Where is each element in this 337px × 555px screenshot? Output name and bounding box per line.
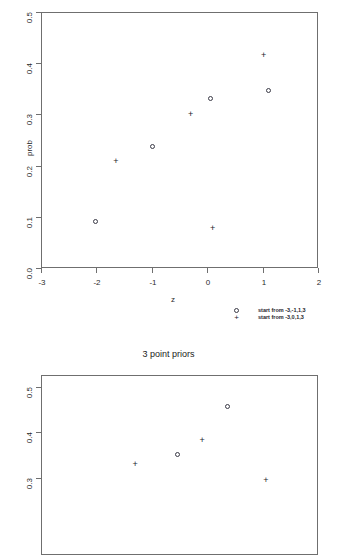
data-point-plus: + [131, 460, 140, 469]
top-ytick-label: 0.1 [26, 217, 34, 243]
data-point-plus: + [261, 476, 270, 485]
top-plot-frame [41, 12, 318, 268]
bottom-ytick-label: 0.3 [26, 478, 34, 504]
data-point-plus: + [111, 157, 120, 166]
data-point-plus: + [198, 436, 207, 445]
top-xtick-mark [41, 268, 42, 273]
top-xtick-mark [263, 268, 264, 273]
top-xaxis-label: z [167, 296, 179, 304]
bottom-ytick-label: 0.4 [26, 432, 34, 458]
data-point-plus: + [208, 224, 217, 233]
plus-marker-icon: + [232, 314, 241, 321]
bottom-plot-title: 3 point priors [0, 349, 337, 359]
top-ytick-label: 0.3 [26, 114, 34, 140]
top-ytick-mark [36, 12, 41, 13]
top-ytick-label: 0.4 [26, 63, 34, 89]
bottom-ytick-label: 0.5 [26, 387, 34, 413]
bottom-scatter-panel: 3 point priors 0.5 0.4 0.3 +++ [0, 340, 337, 492]
data-point-plus: + [259, 51, 268, 60]
top-xtick-label: 1 [258, 279, 270, 287]
bottom-ytick-mark [36, 478, 41, 479]
top-xtick-mark [318, 268, 319, 273]
top-ytick-mark [36, 166, 41, 167]
top-xtick-label: -3 [36, 279, 48, 287]
legend-label: start from -3,-1,1,3 [258, 307, 306, 314]
top-scatter-panel: 0.0 0.1 0.2 0.3 0.4 0.5 prob -3 -2 -1 0 … [0, 0, 337, 336]
top-ytick-mark [36, 114, 41, 115]
top-ytick-mark [36, 63, 41, 64]
top-xtick-label: -2 [91, 279, 103, 287]
top-ytick-label: 0.5 [26, 12, 34, 38]
bottom-plot-frame [41, 375, 318, 555]
top-xtick-mark [207, 268, 208, 273]
top-xtick-label: 2 [313, 279, 325, 287]
top-xtick-label: -1 [147, 279, 159, 287]
top-xtick-label: 0 [202, 279, 214, 287]
top-ytick-label: 0.0 [26, 268, 34, 294]
data-point-plus: + [186, 110, 195, 119]
top-yaxis-label: prob [26, 140, 34, 170]
top-xtick-mark [152, 268, 153, 273]
bottom-ytick-mark [36, 432, 41, 433]
bottom-ytick-mark [36, 387, 41, 388]
legend-label: start from -3,0,1,3 [258, 314, 304, 321]
top-ytick-mark [36, 217, 41, 218]
top-xtick-mark [96, 268, 97, 273]
